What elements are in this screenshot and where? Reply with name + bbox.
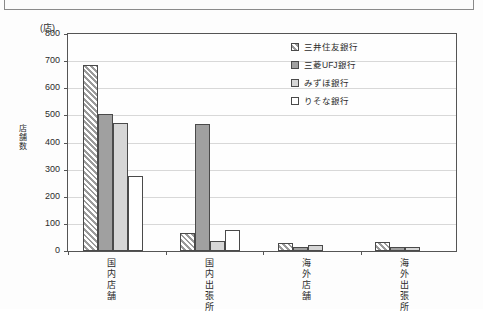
x-axis-label-char: 舗: [300, 291, 313, 302]
y-axis-tick-label: 0: [30, 245, 60, 255]
x-axis-label-char: 外: [398, 269, 411, 280]
bar-1-4: [128, 176, 143, 251]
x-axis-label-char: 出: [398, 280, 411, 291]
x-axis-tick-mark: [361, 251, 362, 255]
x-axis-label-char: 張: [398, 291, 411, 302]
y-axis-tick-label: 800: [30, 28, 60, 38]
plot-area: [67, 33, 457, 252]
legend-label: 三菱UFJ銀行: [304, 58, 356, 72]
bar-series-container: [68, 34, 456, 251]
x-axis-label-char: 外: [300, 269, 313, 280]
x-axis-tick-mark: [263, 251, 264, 255]
y-axis-tick-label: 500: [30, 109, 60, 119]
x-axis-label-char: 出: [203, 280, 216, 291]
chart-legend: 三井住友銀行三菱UFJ銀行みずほ銀行りそな銀行: [291, 40, 358, 112]
bar-2-2: [195, 124, 210, 251]
x-axis-label-char: 所: [398, 302, 411, 313]
y-axis-tick-label: 700: [30, 55, 60, 65]
x-axis-label-2: 国内出張所: [203, 258, 216, 313]
bar-4-2: [390, 247, 405, 251]
legend-swatch-icon: [291, 97, 299, 105]
legend-item-2[interactable]: 三菱UFJ銀行: [291, 58, 358, 72]
x-axis-label-char: 国: [203, 258, 216, 269]
x-axis-label-3: 海外店舗: [300, 258, 313, 302]
x-axis-label-char: 内: [105, 269, 118, 280]
x-axis-label-char: 海: [398, 258, 411, 269]
y-axis-tick-label: 600: [30, 82, 60, 92]
x-axis-label-1: 国内店舗: [105, 258, 118, 302]
y-axis-title-char: 舗: [19, 133, 27, 142]
bar-2-1: [180, 233, 195, 251]
x-axis-label-char: 舗: [105, 291, 118, 302]
y-axis-tick-label: 300: [30, 164, 60, 174]
legend-label: みずほ銀行: [304, 76, 349, 90]
legend-label: 三井住友銀行: [304, 40, 358, 54]
y-axis-title: 店舗数: [17, 124, 29, 151]
x-axis-label-char: 国: [105, 258, 118, 269]
y-axis-tick-label: 100: [30, 218, 60, 228]
legend-swatch-icon: [291, 79, 299, 87]
legend-swatch-icon: [291, 61, 299, 69]
x-axis-label-char: 張: [203, 291, 216, 302]
y-axis-title-char: 数: [19, 142, 27, 151]
legend-swatch-icon: [291, 43, 299, 51]
x-axis-label-char: 内: [203, 269, 216, 280]
bar-1-2: [98, 114, 113, 251]
y-axis-tick-label: 400: [30, 137, 60, 147]
bar-3-1: [278, 243, 293, 251]
x-axis-label-char: 店: [300, 280, 313, 291]
bar-chart-figure: (店) 店舗数 0100200300400500600700800 国内店舗国内…: [0, 16, 483, 309]
x-axis-label-char: 所: [203, 302, 216, 313]
bar-3-3: [308, 245, 323, 251]
bar-1-1: [83, 65, 98, 251]
y-axis-title-char: 店: [19, 124, 27, 133]
x-axis-label-4: 海外出張所: [398, 258, 411, 313]
x-axis-label-char: 海: [300, 258, 313, 269]
bar-2-4: [225, 230, 240, 251]
legend-item-4[interactable]: りそな銀行: [291, 94, 358, 108]
bar-2-3: [210, 241, 225, 251]
legend-label: りそな銀行: [304, 94, 349, 108]
x-axis-tick-mark: [68, 251, 69, 255]
y-axis-tick-label: 200: [30, 191, 60, 201]
x-axis-label-char: 店: [105, 280, 118, 291]
cropped-header-box: [4, 0, 474, 10]
bar-4-1: [375, 242, 390, 251]
bar-3-2: [293, 247, 308, 251]
legend-item-1[interactable]: 三井住友銀行: [291, 40, 358, 54]
legend-item-3[interactable]: みずほ銀行: [291, 76, 358, 90]
bar-4-3: [405, 247, 420, 251]
x-axis-tick-mark: [166, 251, 167, 255]
bar-1-3: [113, 123, 128, 251]
